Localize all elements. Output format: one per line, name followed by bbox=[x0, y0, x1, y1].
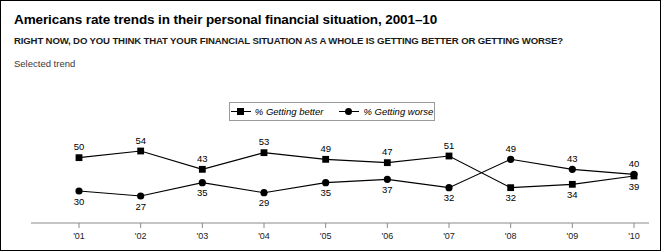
data-point-value-label: 29 bbox=[259, 197, 270, 208]
data-point-marker[interactable] bbox=[322, 156, 329, 163]
data-point-value-label: 32 bbox=[505, 192, 516, 203]
data-point-marker[interactable] bbox=[75, 187, 82, 194]
data-series-group bbox=[75, 148, 637, 200]
data-point-value-label: 49 bbox=[320, 143, 331, 154]
data-point-marker[interactable] bbox=[137, 148, 144, 155]
x-axis-tick-label: '09 bbox=[566, 231, 578, 241]
data-point-value-label: 50 bbox=[74, 141, 85, 152]
data-point-value-label: 32 bbox=[444, 192, 455, 203]
x-axis-tick-label: '07 bbox=[443, 231, 455, 241]
data-point-marker[interactable] bbox=[322, 179, 329, 186]
data-point-marker[interactable] bbox=[446, 153, 453, 160]
data-point-marker[interactable] bbox=[261, 149, 268, 156]
x-axis-tick-label: '05 bbox=[320, 231, 332, 241]
data-point-marker[interactable] bbox=[569, 181, 576, 188]
x-axis-tick-label: '04 bbox=[258, 231, 270, 241]
series-line-getting-worse bbox=[79, 159, 634, 196]
data-point-marker[interactable] bbox=[630, 171, 637, 178]
data-point-marker[interactable] bbox=[199, 179, 206, 186]
series-line-getting-better bbox=[79, 151, 634, 188]
data-point-value-label: 51 bbox=[444, 140, 455, 151]
chart-svg: '01'02'03'04'05'06'07'08'09'10 505443534… bbox=[1, 1, 661, 251]
data-point-value-label: 54 bbox=[135, 135, 146, 146]
data-point-value-label: 53 bbox=[259, 136, 270, 147]
x-axis-tick-label: '01 bbox=[73, 231, 85, 241]
data-point-value-label: 43 bbox=[197, 153, 208, 164]
data-point-value-label: 30 bbox=[74, 196, 85, 207]
chart-figure: Americans rate trends in their personal … bbox=[0, 0, 661, 251]
data-point-marker[interactable] bbox=[384, 159, 391, 166]
x-axis-tick-label: '02 bbox=[135, 231, 147, 241]
x-axis-tick-label: '08 bbox=[505, 231, 517, 241]
data-point-labels: 5054435349475132343930273529353732494340 bbox=[74, 135, 640, 212]
data-point-marker[interactable] bbox=[76, 154, 83, 161]
data-point-value-label: 49 bbox=[505, 143, 516, 154]
data-point-marker[interactable] bbox=[445, 184, 452, 191]
data-point-marker[interactable] bbox=[137, 192, 144, 199]
data-point-value-label: 35 bbox=[197, 187, 208, 198]
data-point-marker[interactable] bbox=[384, 176, 391, 183]
x-axis: '01'02'03'04'05'06'07'08'09'10 bbox=[31, 223, 649, 241]
data-point-marker[interactable] bbox=[199, 166, 206, 173]
chart-plot-area: '01'02'03'04'05'06'07'08'09'10 505443534… bbox=[1, 1, 661, 251]
x-axis-tick-label: '03 bbox=[196, 231, 208, 241]
x-axis-tick-label: '10 bbox=[628, 231, 640, 241]
data-point-marker[interactable] bbox=[507, 156, 514, 163]
data-point-value-label: 43 bbox=[567, 153, 578, 164]
data-point-value-label: 34 bbox=[567, 189, 578, 200]
data-point-marker[interactable] bbox=[260, 189, 267, 196]
data-point-value-label: 37 bbox=[382, 184, 393, 195]
data-point-value-label: 47 bbox=[382, 146, 393, 157]
x-axis-tick-label: '06 bbox=[381, 231, 393, 241]
data-point-value-label: 27 bbox=[135, 201, 146, 212]
data-point-value-label: 39 bbox=[629, 181, 640, 192]
data-point-marker[interactable] bbox=[569, 166, 576, 173]
data-point-value-label: 40 bbox=[629, 158, 640, 169]
data-point-value-label: 35 bbox=[320, 187, 331, 198]
data-point-marker[interactable] bbox=[507, 184, 514, 191]
